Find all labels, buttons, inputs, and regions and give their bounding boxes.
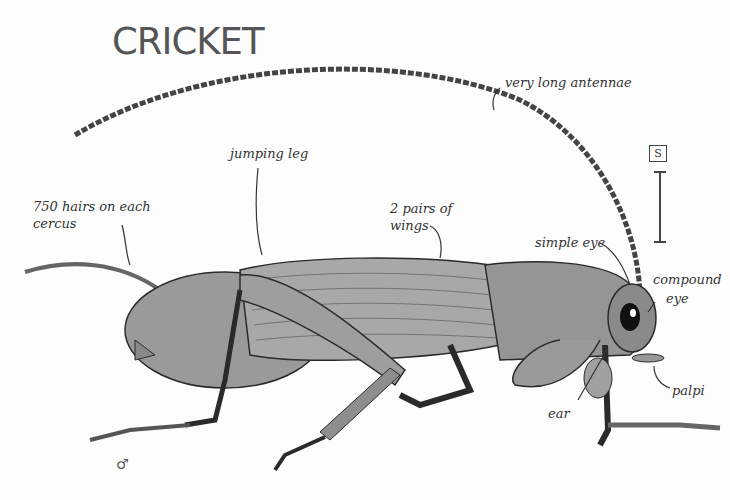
male-symbol-icon: ♂ [116, 456, 129, 472]
label-palpi: palpi [672, 382, 705, 399]
label-antennae: very long antennae [505, 74, 632, 91]
label-compound-eye-1: compound [653, 271, 722, 288]
cricket-diagram: CRICKET [0, 0, 730, 500]
label-cercus-1: 750 hairs on each [33, 198, 151, 215]
label-wings-1: 2 pairs of [390, 200, 452, 217]
label-jumping-leg: jumping leg [230, 145, 308, 162]
label-wings-2: wings [390, 217, 429, 234]
compound-eye [620, 303, 640, 331]
label-simple-eye: simple eye [535, 234, 605, 251]
label-cercus-2: cercus [33, 215, 77, 232]
label-ear: ear [548, 405, 570, 422]
label-compound-eye-2: eye [666, 290, 689, 307]
scale-symbol: S [649, 145, 667, 162]
scale-bar [654, 172, 666, 242]
